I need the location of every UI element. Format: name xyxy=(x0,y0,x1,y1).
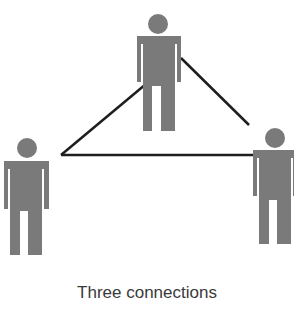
diagram-canvas xyxy=(0,0,294,312)
connection-left-top xyxy=(61,84,146,155)
diagram-caption: Three connections xyxy=(0,283,294,303)
connection-top-right xyxy=(181,58,249,125)
